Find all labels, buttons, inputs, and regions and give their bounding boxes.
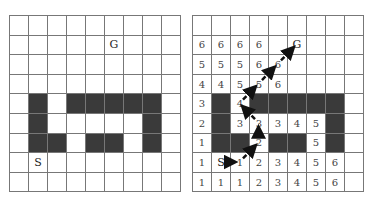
grid-cell xyxy=(124,173,143,193)
grid-cell xyxy=(86,75,105,95)
grid-cell xyxy=(29,75,48,95)
grid-cell xyxy=(29,16,48,36)
grid-cell xyxy=(67,16,86,36)
grid-cell: 5 xyxy=(307,153,326,173)
grid-cell xyxy=(124,153,143,173)
grid-cell xyxy=(345,55,364,75)
wall-cell xyxy=(288,134,307,154)
grid-cell: 6 xyxy=(326,173,345,193)
grid-cell xyxy=(143,75,162,95)
grid-cell xyxy=(48,114,67,134)
grid-cell: 5 xyxy=(212,55,231,75)
grid-cell xyxy=(67,114,86,134)
grid-cell xyxy=(86,36,105,56)
grid-cell xyxy=(345,16,364,36)
grid-cell xyxy=(29,55,48,75)
right-grid-distance-map: 6666G5556644556342333451251S123456111234… xyxy=(192,15,364,192)
grid-cell xyxy=(162,36,181,56)
grid-cell xyxy=(105,173,124,193)
grid-cell xyxy=(345,75,364,95)
goal-cell: G xyxy=(288,36,307,56)
grid-cell xyxy=(105,55,124,75)
grid-cell xyxy=(143,16,162,36)
grid-cell: 2 xyxy=(193,114,212,134)
grid-cell xyxy=(162,173,181,193)
wall-cell xyxy=(143,134,162,154)
grid-cell: 1 xyxy=(193,153,212,173)
wall-cell xyxy=(288,94,307,114)
grid-cell xyxy=(67,173,86,193)
grid-cell xyxy=(269,16,288,36)
start-cell: S xyxy=(29,153,48,173)
grid-cell: 5 xyxy=(307,114,326,134)
grid-cell xyxy=(10,75,29,95)
grid-cell: 3 xyxy=(269,114,288,134)
grid-cell xyxy=(67,75,86,95)
wall-cell xyxy=(250,94,269,114)
grid-cell xyxy=(48,16,67,36)
wall-cell xyxy=(212,134,231,154)
wall-cell xyxy=(143,114,162,134)
grid-cell xyxy=(10,16,29,36)
wall-cell xyxy=(48,134,67,154)
grid-cell xyxy=(67,55,86,75)
grid-cell: 4 xyxy=(193,75,212,95)
grid-cell xyxy=(143,55,162,75)
grid-cell xyxy=(345,94,364,114)
grid-cell xyxy=(307,55,326,75)
grid-cell xyxy=(124,134,143,154)
grid-cell xyxy=(193,16,212,36)
grid-cell: 5 xyxy=(193,55,212,75)
grid-cell xyxy=(105,153,124,173)
grid-cell: 5 xyxy=(231,55,250,75)
wall-cell xyxy=(326,94,345,114)
grid-cell xyxy=(29,36,48,56)
grid-cell: 5 xyxy=(231,75,250,95)
grid-cell: 6 xyxy=(193,36,212,56)
grid-cell xyxy=(124,114,143,134)
grid-cell xyxy=(326,16,345,36)
grid-cell: 1 xyxy=(212,173,231,193)
grid-cell: 1 xyxy=(193,134,212,154)
wall-cell xyxy=(29,94,48,114)
grid-cell xyxy=(288,55,307,75)
grid-cell xyxy=(143,36,162,56)
grid-cell xyxy=(105,114,124,134)
grid-cell xyxy=(307,75,326,95)
grid-cell xyxy=(162,114,181,134)
grid-cell xyxy=(162,55,181,75)
grid-cell: 4 xyxy=(288,173,307,193)
start-cell: S xyxy=(212,153,231,173)
left-grid-map: GS xyxy=(9,15,181,192)
grid-cell xyxy=(10,134,29,154)
grid-cell xyxy=(231,16,250,36)
grid-cell xyxy=(288,16,307,36)
grid-cell: 3 xyxy=(193,94,212,114)
grid-cell: 6 xyxy=(326,153,345,173)
grid-cell xyxy=(345,173,364,193)
grid-cell xyxy=(48,173,67,193)
grid-cell xyxy=(48,36,67,56)
wall-cell xyxy=(124,94,143,114)
grid-cell: 4 xyxy=(231,94,250,114)
grid-cell: 6 xyxy=(250,36,269,56)
wall-cell xyxy=(29,114,48,134)
grid-cell: 3 xyxy=(269,153,288,173)
grid-cell: 1 xyxy=(231,153,250,173)
wall-cell xyxy=(143,94,162,114)
grid-cell xyxy=(10,114,29,134)
grid-cell xyxy=(124,36,143,56)
wall-cell xyxy=(212,94,231,114)
grid-cell xyxy=(124,55,143,75)
grid-cell xyxy=(10,55,29,75)
grid-cell xyxy=(162,134,181,154)
grid-cell: 6 xyxy=(269,75,288,95)
grid-cell xyxy=(48,75,67,95)
grid-cell: 5 xyxy=(307,134,326,154)
grid-cell xyxy=(288,75,307,95)
wall-cell xyxy=(105,134,124,154)
grid-cell: 4 xyxy=(288,153,307,173)
grid-cell xyxy=(143,173,162,193)
grid-cell: 3 xyxy=(231,114,250,134)
grid-cell: 6 xyxy=(269,55,288,75)
